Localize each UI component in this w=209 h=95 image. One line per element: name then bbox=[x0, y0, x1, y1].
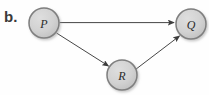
edge-r-to-q bbox=[136, 36, 180, 70]
node-p-label: P bbox=[39, 17, 48, 31]
node-r-label: R bbox=[117, 69, 126, 83]
directed-graph: P Q R bbox=[0, 0, 209, 95]
graph-node-r[interactable]: R bbox=[107, 60, 137, 90]
edge-p-to-r bbox=[57, 33, 109, 66]
figure-container: b. bbox=[0, 0, 209, 95]
node-layer: P Q R bbox=[29, 8, 206, 90]
graph-node-q[interactable]: Q bbox=[176, 9, 206, 39]
node-q-label: Q bbox=[187, 18, 196, 32]
graph-node-p[interactable]: P bbox=[29, 8, 59, 38]
